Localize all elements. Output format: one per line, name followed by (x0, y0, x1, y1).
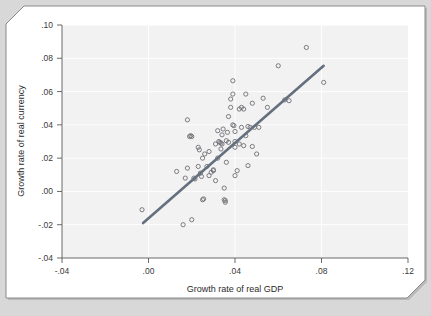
y-tick-label: .04 (41, 120, 53, 130)
y-tick-label: .02 (41, 153, 53, 163)
y-tick-label: .00 (41, 186, 53, 196)
scatter-plot: .10.08.06.04.02.00-.02-.04 -.04.00.04.08… (0, 0, 431, 316)
y-tick-label: -.04 (38, 253, 53, 263)
x-tick-label: .04 (229, 266, 241, 276)
y-axis-title: Growth rate of real currency (16, 85, 26, 197)
y-tick-label: .06 (41, 87, 53, 97)
y-tick-label: -.02 (38, 220, 53, 230)
figure-root: .10.08.06.04.02.00-.02-.04 -.04.00.04.08… (0, 0, 431, 316)
y-axis-ticks: .10.08.06.04.02.00-.02-.04 (38, 20, 62, 263)
y-tick-label: .08 (41, 53, 53, 63)
x-axis-ticks: -.04.00.04.08.12 (55, 258, 415, 276)
x-axis-title: Growth rate of real GDP (187, 284, 284, 294)
y-tick-label: .10 (41, 20, 53, 30)
x-tick-label: .08 (316, 266, 328, 276)
x-tick-label: .00 (143, 266, 155, 276)
x-tick-label: .12 (402, 266, 414, 276)
x-tick-label: -.04 (55, 266, 70, 276)
